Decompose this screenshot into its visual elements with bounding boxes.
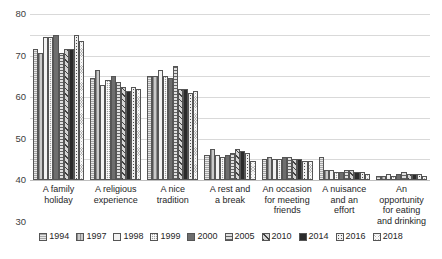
bar — [422, 176, 427, 180]
y-axis-tick-label: 60 — [15, 92, 26, 102]
legend-label: 2018 — [383, 232, 403, 241]
legend-swatch-icon — [373, 233, 381, 241]
legend-swatch-icon — [76, 233, 84, 241]
bar — [308, 161, 313, 180]
legend-item[interactable]: 2000 — [187, 232, 217, 241]
bar — [365, 174, 370, 180]
legend-label: 2000 — [197, 232, 217, 241]
bar-chart: 01020304050607080 A familyholidayA relig… — [0, 0, 442, 259]
legend-label: 2010 — [272, 232, 292, 241]
legend-label: 2005 — [235, 232, 255, 241]
bar — [79, 41, 84, 180]
bar-group — [316, 14, 373, 180]
bar-groups — [30, 14, 430, 180]
category-label: Anopportunityfor eatingand drinking — [373, 184, 430, 226]
bar-group — [144, 14, 201, 180]
legend-label: 2016 — [346, 232, 366, 241]
chart-legend: 1994199719981999200020052010201420162018 — [0, 232, 442, 241]
legend-item[interactable]: 2016 — [336, 232, 366, 241]
bar-group — [259, 14, 316, 180]
legend-swatch-icon — [225, 233, 233, 241]
bar-group — [373, 14, 430, 180]
legend-label: 1994 — [49, 232, 69, 241]
bar — [193, 91, 198, 180]
y-axis-tick-label: 50 — [15, 134, 26, 144]
bar — [136, 89, 141, 180]
legend-item[interactable]: 1998 — [113, 232, 143, 241]
legend-item[interactable]: 2018 — [373, 232, 403, 241]
legend-label: 1997 — [86, 232, 106, 241]
y-axis-tick-label: 40 — [15, 175, 26, 185]
gridline: 0 — [30, 180, 430, 181]
bar — [250, 161, 255, 180]
category-label: An occasionfor meetingfriends — [259, 184, 316, 226]
plot-area: 01020304050607080 — [30, 14, 430, 180]
bar-group — [30, 14, 87, 180]
legend-item[interactable]: 2005 — [225, 232, 255, 241]
legend-item[interactable]: 2010 — [262, 232, 292, 241]
category-axis-labels: A familyholidayA religiousexperienceA ni… — [30, 184, 430, 226]
category-label: A religiousexperience — [87, 184, 144, 226]
legend-swatch-icon — [187, 233, 195, 241]
legend-swatch-icon — [39, 233, 47, 241]
legend-swatch-icon — [262, 233, 270, 241]
legend-label: 2014 — [309, 232, 329, 241]
bar-group — [201, 14, 258, 180]
legend-swatch-icon — [150, 233, 158, 241]
legend-label: 1998 — [123, 232, 143, 241]
category-label: A rest anda break — [201, 184, 258, 226]
bar-group — [87, 14, 144, 180]
category-label: A nuisanceand aneffort — [316, 184, 373, 226]
legend-item[interactable]: 2014 — [299, 232, 329, 241]
legend-swatch-icon — [299, 233, 307, 241]
legend-label: 1999 — [160, 232, 180, 241]
category-label: A familyholiday — [30, 184, 87, 226]
y-axis-tick-label: 80 — [15, 9, 26, 19]
legend-item[interactable]: 1994 — [39, 232, 69, 241]
legend-item[interactable]: 1997 — [76, 232, 106, 241]
legend-swatch-icon — [113, 233, 121, 241]
legend-item[interactable]: 1999 — [150, 232, 180, 241]
category-label: A nicetradition — [144, 184, 201, 226]
y-axis-tick-label: 70 — [15, 51, 26, 61]
legend-swatch-icon — [336, 233, 344, 241]
y-axis-tick-label: 30 — [15, 217, 26, 227]
